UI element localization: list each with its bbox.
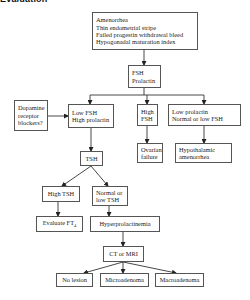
node-line: amenorrhea xyxy=(179,153,228,160)
node-line: FSH xyxy=(141,115,154,122)
node-line: High xyxy=(141,108,154,115)
node-normal-low-tsh: Normal or low TSH xyxy=(92,186,128,206)
node-line: Normal or xyxy=(96,189,124,196)
node-line: Evaluate FT4 xyxy=(43,219,77,230)
node-amenorrhea-criteria: Amenorrhea Thin endometrial stripe Faile… xyxy=(92,12,198,50)
node-line: receptor xyxy=(18,112,44,119)
node-line: Thin endometrial stripe xyxy=(96,24,194,31)
node-line: blockers? xyxy=(18,119,44,126)
node-hypothalamic-amenorrhea: Hypothalamic amenorrhea xyxy=(175,143,232,163)
node-line: Dopamine xyxy=(18,104,44,111)
node-line: FSH xyxy=(132,69,157,76)
node-line: Hyperprolactinemia xyxy=(99,220,150,227)
node-fsh-prolactin: FSH Prolactin xyxy=(128,65,161,88)
node-line: Failed progestin withdrawal bleed xyxy=(96,31,194,38)
node-line: Normal or low FSH xyxy=(172,115,237,122)
node-ovarian-failure: Ovarian failure xyxy=(137,143,163,163)
node-tsh: TSH xyxy=(80,151,103,166)
node-macroadenoma: Macroadenoma xyxy=(155,273,204,287)
node-no-lesion: No lesion xyxy=(56,273,93,287)
node-evaluate-ft4: Evaluate FT4 xyxy=(36,216,83,232)
node-subscript: 4 xyxy=(74,223,76,228)
node-line: failure xyxy=(141,153,159,160)
node-high-tsh: High TSH xyxy=(42,186,80,202)
node-line: Low FSH xyxy=(72,109,110,116)
node-line: No lesion xyxy=(62,276,87,283)
node-line: TSH xyxy=(85,155,97,162)
node-line: Hypogonadal maturation index xyxy=(96,38,194,45)
node-line: Macroadenoma xyxy=(160,276,200,283)
node-low-fsh-high-prolactin: Low FSH High prolactin xyxy=(68,104,114,128)
node-low-prolactin-normal-fsh: Low prolactin Normal or low FSH xyxy=(168,104,241,126)
node-line: Low prolactin xyxy=(172,108,237,115)
node-line: low TSH xyxy=(96,196,124,203)
node-hyperprolactinemia: Hyperprolactinemia xyxy=(90,216,160,232)
node-high-fsh: High FSH xyxy=(137,104,158,126)
node-dopamine-blockers: Dopamine receptor blockers? xyxy=(14,100,48,131)
node-ct-mri: CT or MRI xyxy=(103,246,144,262)
node-label: Evaluate FT xyxy=(43,219,74,226)
node-line: Hypothalamic xyxy=(179,146,228,153)
node-line: CT or MRI xyxy=(109,250,138,257)
node-line: Ovarian xyxy=(141,146,159,153)
node-line: Amenorrhea xyxy=(96,16,194,23)
node-microadenoma: Microadenoma xyxy=(100,273,149,287)
node-line: Prolactin xyxy=(132,77,157,84)
node-line: Microadenoma xyxy=(105,276,144,283)
node-line: High prolactin xyxy=(72,116,110,123)
node-line: High TSH xyxy=(48,190,74,197)
